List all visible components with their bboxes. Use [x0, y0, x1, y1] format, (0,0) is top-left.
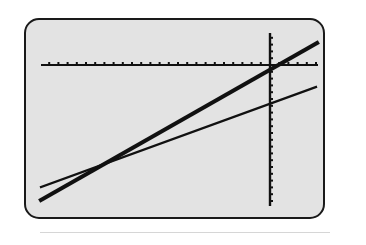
calculator-graph-figure: [0, 0, 366, 245]
line-1-thick: [41, 43, 317, 200]
line-2-thin: [41, 87, 316, 187]
graph-plot: [0, 0, 366, 245]
page-divider: [40, 232, 330, 233]
y-axis: [269, 33, 273, 206]
series-lines: [41, 43, 317, 200]
